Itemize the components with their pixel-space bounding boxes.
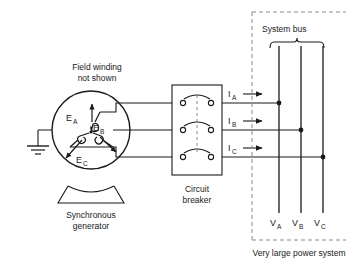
bus-voltage-label-vb: V B	[292, 218, 303, 230]
current-label-ib: I B	[228, 116, 262, 128]
power-system-caption: Very large power system	[252, 248, 345, 258]
emf-label-eb-base: E	[93, 123, 99, 133]
emf-label-ea-sub: A	[73, 118, 78, 125]
current-label-ia-sub: A	[232, 94, 237, 101]
emf-label-ec-base: E	[76, 155, 82, 165]
current-label-ic-sub: C	[232, 148, 237, 155]
breaker-contact-b-right	[208, 127, 213, 132]
electrical-diagram: E A E B E C Synchronous generator Field …	[0, 0, 353, 266]
emf-label-ec-sub: C	[83, 160, 88, 167]
breaker-label-line1: Circuit	[185, 184, 210, 194]
breaker-label-line2: breaker	[183, 195, 212, 205]
field-winding-note-line1: Field winding	[72, 62, 122, 72]
current-label-ic-base: I	[228, 143, 231, 153]
field-winding-note-line2: not shown	[78, 73, 117, 83]
emf-label-eb-sub: B	[100, 128, 104, 135]
generator-base	[58, 186, 124, 203]
generator-label-line1: Synchronous	[66, 210, 116, 220]
current-label-ib-sub: B	[232, 121, 236, 128]
bus-junction-b	[299, 128, 304, 133]
system-bus: System bus V A V B V C	[262, 24, 326, 230]
power-system-boundary	[252, 12, 346, 240]
breaker-contact-a-right	[208, 100, 213, 105]
breaker-to-bus-feeders	[222, 103, 323, 157]
breaker-contact-b-left	[180, 127, 185, 132]
bus-voltage-vb-base: V	[292, 218, 298, 228]
bus-voltage-va-sub: A	[277, 223, 282, 230]
bus-voltage-vb-sub: B	[299, 223, 303, 230]
breaker-enclosure	[172, 85, 222, 175]
bus-junction-a	[277, 101, 282, 106]
current-label-ib-base: I	[228, 116, 231, 126]
bus-voltage-label-va: V A	[270, 218, 282, 230]
system-bus-label: System bus	[262, 24, 306, 34]
synchronous-generator: E A E B E C Synchronous generator	[52, 91, 130, 231]
field-winding-note: Field winding not shown	[72, 62, 122, 83]
bus-voltage-va-base: V	[270, 218, 276, 228]
bus-voltage-vc-base: V	[314, 218, 320, 228]
bus-voltage-vc-sub: C	[321, 223, 326, 230]
circuit-breaker: Circuit breaker	[172, 85, 222, 205]
current-label-ic: I C	[228, 143, 262, 155]
current-label-ia-base: I	[228, 89, 231, 99]
bus-voltage-label-vc: V C	[314, 218, 326, 230]
bus-junction-c	[321, 155, 326, 160]
current-label-ia: I A	[228, 89, 262, 101]
bus-brace-icon	[270, 38, 324, 48]
emf-label-ea-base: E	[66, 113, 72, 123]
breaker-contact-a-left	[180, 100, 185, 105]
breaker-contact-c-left	[180, 154, 185, 159]
power-system-dashed-border	[252, 12, 346, 240]
ground-icon	[27, 146, 49, 154]
current-annotations: I A I B I C	[228, 89, 262, 155]
generator-label-line2: generator	[73, 221, 110, 231]
breaker-contact-c-right	[208, 154, 213, 159]
